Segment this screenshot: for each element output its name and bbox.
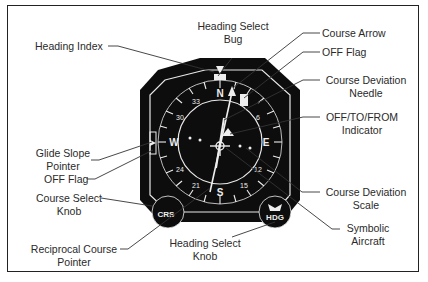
label-reciprocal-line2: Pointer [26,256,122,269]
label-course-deviation-needle: Course Deviation Needle [322,74,410,100]
label-course-deviation-needle-line1: Course Deviation [322,74,410,87]
compass-w-label: W [169,137,179,148]
label-heading-index: Heading Index [35,40,103,53]
label-heading-select-knob: Heading Select Knob [168,237,242,263]
label-course-arrow: Course Arrow [322,27,386,40]
label-off-flag-left: OFF Flag [44,173,88,186]
label-symbolic-aircraft: Symbolic Aircraft [340,222,396,248]
compass-n-label: N [216,88,223,99]
label-symbolic-aircraft-line2: Aircraft [340,235,396,248]
label-heading-select-bug-line1: Heading Select [196,20,270,33]
label-course-deviation-scale-line2: Scale [322,199,410,212]
label-heading-select-knob-line1: Heading Select [168,237,242,250]
label-reciprocal-line1: Reciprocal Course [26,243,122,256]
label-course-deviation-scale-line1: Course Deviation [322,186,410,199]
label-course-select-line1: Course Select [34,192,104,205]
label-off-flag-top: OFF Flag [322,46,366,59]
heading-select-knob[interactable]: HDG [259,196,291,228]
label-course-select-knob: Course Select Knob [34,192,104,218]
label-course-deviation-scale: Course Deviation Scale [322,186,410,212]
compass-6-label: 6 [256,114,260,121]
label-off-to-from-line1: OFF/TO/FROM [322,111,402,124]
hdg-knob-label: HDG [266,213,284,222]
crs-knob-label: CRS [158,210,176,219]
compass-30-label: 30 [176,114,184,121]
label-course-deviation-needle-line2: Needle [322,87,410,100]
compass-e-label: E [263,137,270,148]
label-glide-slope-line1: Glide Slope [28,147,98,160]
compass-33-label: 33 [192,98,200,105]
compass-24-label: 24 [176,166,184,173]
label-heading-select-knob-line2: Knob [168,250,242,263]
label-heading-select-bug: Heading Select Bug [196,20,270,46]
label-glide-slope-pointer: Glide Slope Pointer [28,147,98,173]
label-reciprocal-course-pointer: Reciprocal Course Pointer [26,243,122,269]
label-off-to-from-line2: Indicator [322,124,402,137]
course-select-knob[interactable]: CRS [152,196,184,228]
label-symbolic-aircraft-line1: Symbolic [340,222,396,235]
compass-15-label: 15 [240,182,248,189]
label-off-to-from-indicator: OFF/TO/FROM Indicator [322,111,402,137]
label-heading-select-bug-line2: Bug [196,33,270,46]
heading-bug-icon [214,74,226,80]
compass-s-label: S [217,187,224,198]
label-glide-slope-line2: Pointer [28,160,98,173]
compass-21-label: 21 [192,182,200,189]
label-course-select-line2: Knob [34,205,104,218]
